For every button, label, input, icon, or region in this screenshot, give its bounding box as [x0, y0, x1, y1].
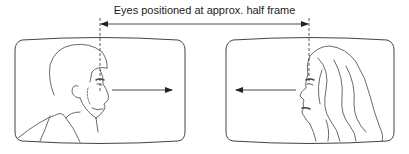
man-profile-illustration: [18, 44, 109, 142]
woman-profile-illustration: [300, 46, 383, 141]
framing-diagram: [0, 0, 409, 154]
